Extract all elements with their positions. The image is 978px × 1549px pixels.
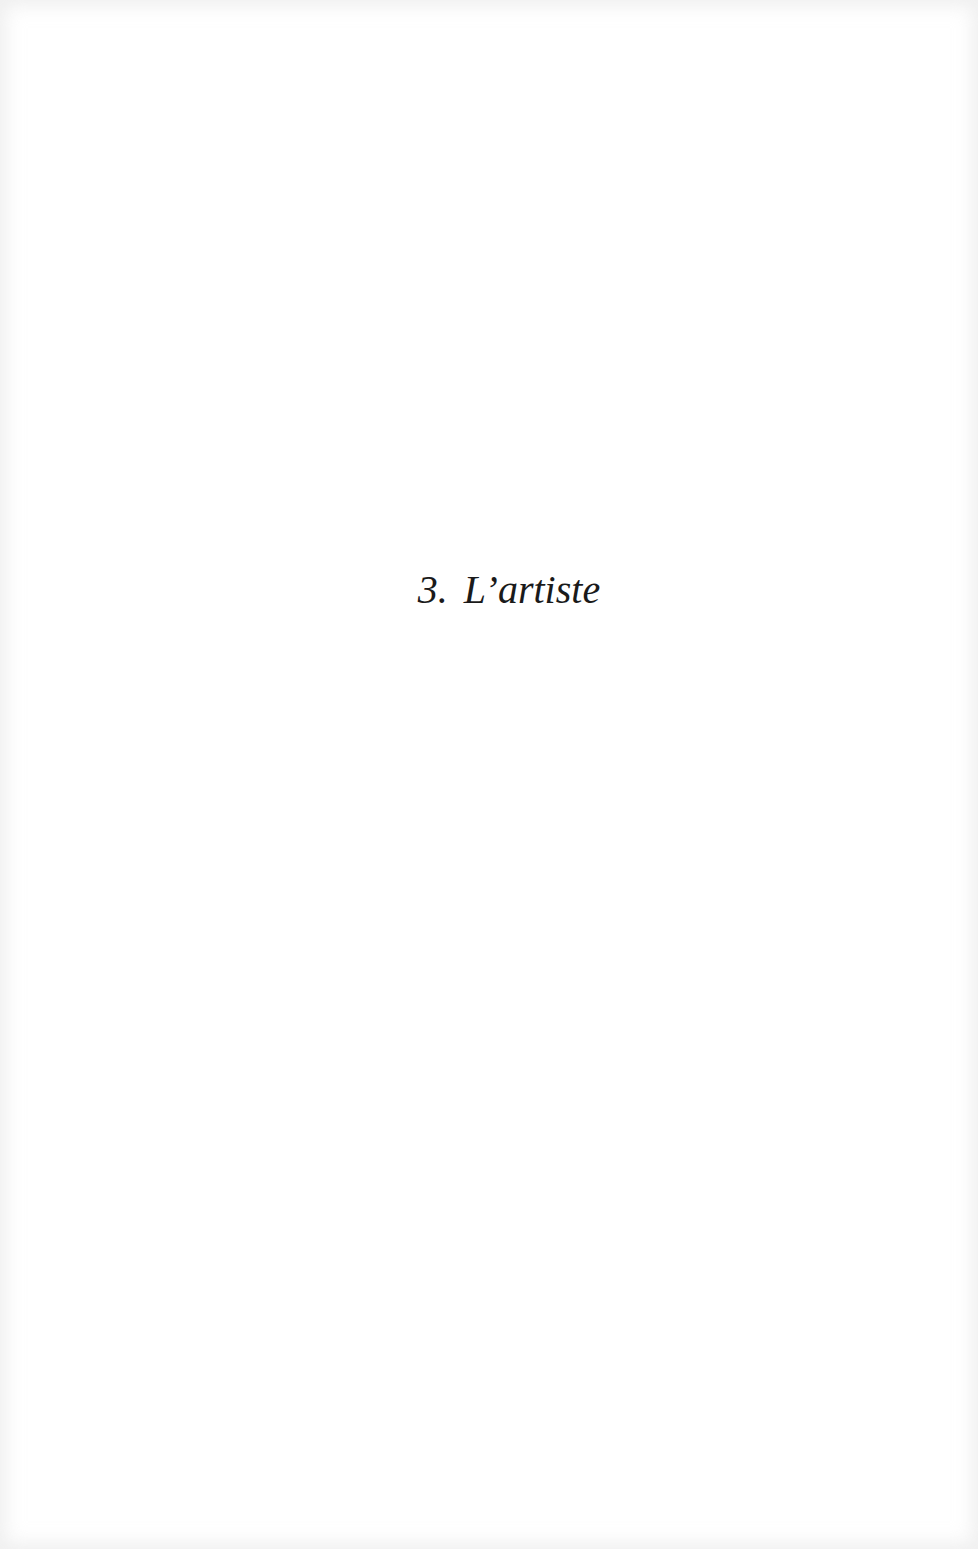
book-page: 3.L’artiste (0, 0, 978, 1549)
chapter-heading: 3.L’artiste (0, 518, 978, 662)
chapter-title: L’artiste (464, 567, 600, 612)
chapter-number: 3. (418, 567, 448, 612)
